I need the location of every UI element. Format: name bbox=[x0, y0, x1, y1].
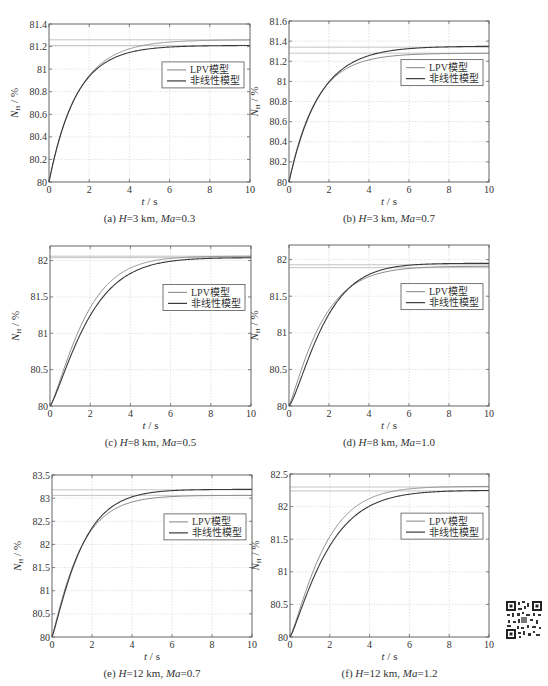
subfigure-caption: (b) H=3 km, Ma=0.7 bbox=[343, 212, 436, 225]
y-tick-label: 81.5 bbox=[270, 291, 288, 302]
y-tick-label: 82 bbox=[277, 254, 287, 265]
chart-b: 02468108080.280.480.680.88181.281.481.6t… bbox=[248, 16, 494, 226]
x-tick-label: 0 bbox=[287, 408, 292, 419]
x-tick-label: 2 bbox=[327, 408, 332, 419]
y-tick-label: 80.8 bbox=[270, 96, 288, 107]
x-tick-label: 2 bbox=[327, 639, 332, 650]
x-tick-label: 0 bbox=[50, 639, 55, 650]
series-nonlinear bbox=[52, 489, 252, 637]
y-axis-label: NH / % bbox=[9, 311, 23, 342]
y-axis-label: NH / % bbox=[248, 86, 262, 117]
y-tick-label: 81.6 bbox=[270, 16, 288, 27]
x-tick-label: 6 bbox=[407, 639, 412, 650]
y-tick-label: 81.4 bbox=[270, 36, 288, 47]
y-tick-label: 82.5 bbox=[271, 469, 289, 480]
x-tick-label: 4 bbox=[367, 408, 372, 419]
legend-label-nonlinear: 非线性模型 bbox=[429, 296, 479, 308]
y-tick-label: 81 bbox=[277, 327, 287, 338]
series-lpv bbox=[49, 40, 250, 182]
y-tick-label: 81.4 bbox=[30, 19, 48, 30]
legend-label-lpv: LPV模型 bbox=[190, 63, 229, 75]
y-tick-label: 80 bbox=[277, 401, 287, 412]
y-axis-label: NH / % bbox=[249, 540, 263, 571]
legend-label-lpv: LPV模型 bbox=[192, 515, 231, 527]
x-tick-label: 0 bbox=[288, 639, 293, 650]
legend: LPV模型非线性模型 bbox=[164, 514, 246, 540]
y-tick-label: 81.5 bbox=[271, 534, 289, 545]
y-tick-label: 80.4 bbox=[30, 131, 48, 142]
legend-label-lpv: LPV模型 bbox=[191, 286, 230, 298]
legend: LPV模型非线性模型 bbox=[401, 60, 483, 86]
x-tick-label: 2 bbox=[88, 408, 93, 419]
y-axis-label: NH / % bbox=[8, 88, 22, 119]
y-axis-label: NH / % bbox=[248, 310, 262, 341]
y-tick-label: 80 bbox=[277, 177, 287, 188]
grid-lines bbox=[289, 245, 489, 406]
x-tick-label: 0 bbox=[287, 184, 292, 195]
y-tick-label: 81.5 bbox=[33, 562, 51, 573]
y-tick-label: 80.6 bbox=[30, 109, 48, 120]
x-tick-label: 8 bbox=[208, 408, 213, 419]
y-tick-label: 80 bbox=[278, 632, 288, 643]
y-tick-label: 82 bbox=[40, 539, 50, 550]
x-tick-label: 6 bbox=[167, 184, 172, 195]
y-tick-label: 80.4 bbox=[270, 136, 288, 147]
x-tick-label: 8 bbox=[447, 408, 452, 419]
qr-code bbox=[505, 600, 543, 640]
x-tick-label: 10 bbox=[484, 408, 494, 419]
x-axis-label: t / s bbox=[144, 650, 160, 662]
x-tick-label: 6 bbox=[170, 639, 175, 650]
x-tick-label: 8 bbox=[210, 639, 215, 650]
series-nonlinear bbox=[290, 490, 489, 637]
plot-frame bbox=[289, 245, 489, 406]
x-tick-label: 4 bbox=[367, 639, 372, 650]
y-tick-label: 81 bbox=[37, 64, 47, 75]
x-tick-label: 10 bbox=[247, 639, 257, 650]
y-tick-label: 83.5 bbox=[33, 470, 51, 481]
x-axis-label: t / s bbox=[143, 419, 159, 431]
qr-code-icon bbox=[505, 600, 543, 640]
x-axis-label: t / s bbox=[382, 650, 398, 662]
y-tick-label: 81 bbox=[277, 76, 287, 87]
y-tick-label: 80 bbox=[40, 632, 50, 643]
y-tick-label: 82 bbox=[278, 501, 288, 512]
x-tick-label: 8 bbox=[207, 184, 212, 195]
x-tick-label: 4 bbox=[367, 184, 372, 195]
y-tick-label: 82.5 bbox=[33, 516, 51, 527]
chart-c: 02468108080.58181.582t / sNH / %LPV模型非线性… bbox=[9, 246, 256, 449]
y-tick-label: 81.2 bbox=[30, 41, 48, 52]
legend: LPV模型非线性模型 bbox=[401, 284, 483, 310]
plot-frame bbox=[50, 246, 251, 406]
x-axis-label: t / s bbox=[381, 419, 397, 431]
chart-a: 02468108080.280.480.680.88181.281.4t / s… bbox=[8, 19, 255, 226]
subfigure-caption: (c) H=8 km, Ma=0.5 bbox=[105, 436, 197, 449]
x-tick-label: 2 bbox=[87, 184, 92, 195]
x-tick-label: 10 bbox=[245, 184, 255, 195]
chart-e: 02468108080.58181.58282.58383.5t / sNH /… bbox=[11, 470, 257, 681]
x-tick-label: 2 bbox=[327, 184, 332, 195]
legend-label-nonlinear: 非线性模型 bbox=[190, 74, 240, 86]
chart-d: 02468108080.58181.582t / sNH / %LPV模型非线性… bbox=[248, 245, 494, 449]
legend-label-nonlinear: 非线性模型 bbox=[192, 526, 242, 538]
grid-lines bbox=[52, 475, 252, 637]
subfigure-caption: (e) H=12 km, Ma=0.7 bbox=[103, 667, 201, 680]
x-tick-label: 10 bbox=[246, 408, 256, 419]
x-tick-label: 10 bbox=[484, 639, 494, 650]
legend-label-lpv: LPV模型 bbox=[429, 61, 468, 73]
legend-label-nonlinear: 非线性模型 bbox=[429, 72, 479, 84]
x-tick-label: 10 bbox=[484, 184, 494, 195]
y-tick-label: 83 bbox=[40, 493, 50, 504]
x-tick-label: 4 bbox=[127, 184, 132, 195]
chart-f: 02468108080.58181.58282.5t / sNH / %LPV模… bbox=[249, 469, 494, 681]
grid-lines bbox=[289, 21, 489, 182]
x-axis-label: t / s bbox=[142, 195, 158, 207]
x-tick-label: 6 bbox=[407, 408, 412, 419]
grid-lines bbox=[49, 24, 250, 182]
legend-label-lpv: LPV模型 bbox=[429, 285, 468, 297]
x-tick-label: 0 bbox=[47, 184, 52, 195]
legend: LPV模型非线性模型 bbox=[162, 62, 244, 88]
y-tick-label: 80.8 bbox=[30, 86, 48, 97]
y-tick-label: 81 bbox=[38, 328, 48, 339]
y-tick-label: 80 bbox=[37, 177, 47, 188]
y-tick-label: 81 bbox=[278, 566, 288, 577]
